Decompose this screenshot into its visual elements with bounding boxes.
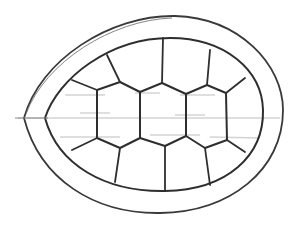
turtle-shell-sketch: pencil sketch of a turtle shell (carapac… <box>0 0 301 231</box>
shell-drawing <box>0 0 301 231</box>
